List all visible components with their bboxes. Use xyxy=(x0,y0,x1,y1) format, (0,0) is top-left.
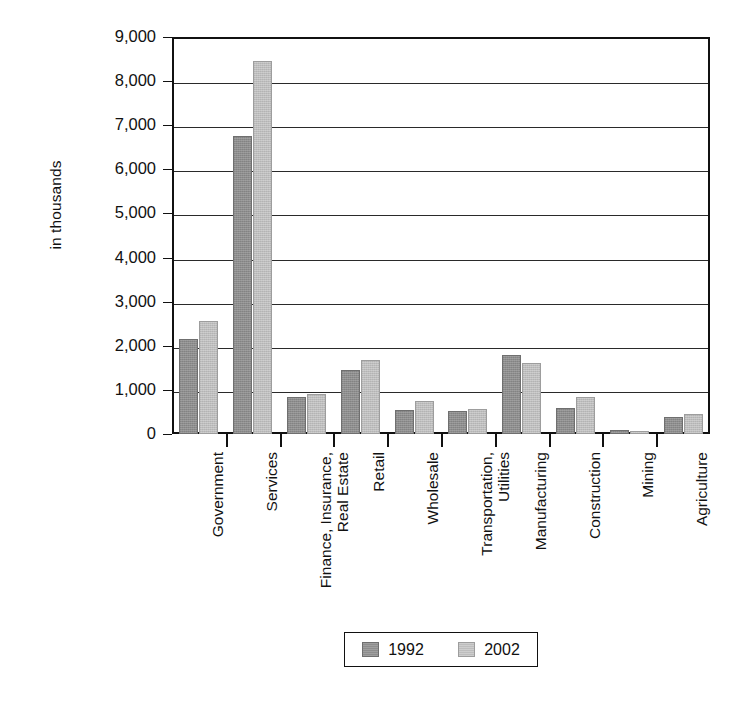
legend-label-2002: 2002 xyxy=(484,641,520,659)
x-axis-label: Retail xyxy=(370,452,387,642)
x-tick-mark xyxy=(226,434,228,447)
x-axis-label: Construction xyxy=(586,452,603,642)
gridline xyxy=(174,127,708,128)
y-tick-label: 0 xyxy=(36,425,156,442)
x-axis-label: Mining xyxy=(639,452,656,642)
x-axis-label: Wholesale xyxy=(424,452,441,642)
gridline xyxy=(174,83,708,84)
y-tick-mark xyxy=(163,213,172,214)
y-tick-label: 8,000 xyxy=(36,72,156,89)
y-tick-mark xyxy=(163,434,172,435)
y-tick-mark xyxy=(163,302,172,303)
y-tick-label: 1,000 xyxy=(36,381,156,398)
x-tick-mark xyxy=(280,434,282,447)
x-tick-mark xyxy=(602,434,604,447)
y-tick-mark xyxy=(163,169,172,170)
x-axis-label: Finance, Insurance, Real Estate xyxy=(317,452,352,642)
y-tick-label: 7,000 xyxy=(36,116,156,133)
x-axis-label: Manufacturing xyxy=(532,452,549,642)
legend-label-1992: 1992 xyxy=(388,641,424,659)
y-tick-mark xyxy=(163,81,172,82)
gridline xyxy=(174,260,708,261)
x-axis-label: Transportation, Utilities xyxy=(478,452,513,642)
y-tick-label: 2,000 xyxy=(36,337,156,354)
x-tick-mark xyxy=(441,434,443,447)
gridline xyxy=(174,215,708,216)
y-tick-label: 5,000 xyxy=(36,204,156,221)
gridline xyxy=(174,304,708,305)
chart-legend: 1992 2002 xyxy=(344,632,538,667)
legend-swatch-1992 xyxy=(362,642,379,657)
gridline xyxy=(174,348,708,349)
legend-swatch-2002 xyxy=(458,642,475,657)
y-tick-label: 4,000 xyxy=(36,249,156,266)
x-axis-label: Government xyxy=(209,452,226,642)
bar-chart: in thousands 9,0008,0007,0006,0005,0004,… xyxy=(0,0,736,701)
plot-area xyxy=(172,37,710,434)
legend-entry-1992: 1992 xyxy=(362,641,424,659)
y-tick-mark xyxy=(163,258,172,259)
y-tick-mark xyxy=(163,346,172,347)
gridline xyxy=(174,171,708,172)
y-tick-mark xyxy=(163,37,172,38)
x-tick-mark xyxy=(387,434,389,447)
y-tick-label: 6,000 xyxy=(36,160,156,177)
gridline xyxy=(174,392,708,393)
x-axis-label: Services xyxy=(263,452,280,642)
y-tick-label: 9,000 xyxy=(36,28,156,45)
legend-entry-2002: 2002 xyxy=(458,641,520,659)
y-tick-mark xyxy=(163,125,172,126)
x-axis-label: Agriculture xyxy=(693,452,710,642)
x-tick-mark xyxy=(549,434,551,447)
y-tick-label: 3,000 xyxy=(36,293,156,310)
x-tick-mark xyxy=(333,434,335,447)
x-tick-mark xyxy=(495,434,497,447)
y-tick-mark xyxy=(163,390,172,391)
x-tick-mark xyxy=(656,434,658,447)
